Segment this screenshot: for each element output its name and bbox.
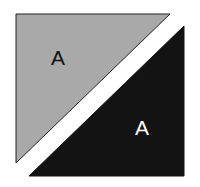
black-triangle-label: A bbox=[135, 116, 149, 139]
gray-triangle-label: A bbox=[51, 46, 65, 69]
diagram-canvas: A A bbox=[0, 0, 200, 187]
